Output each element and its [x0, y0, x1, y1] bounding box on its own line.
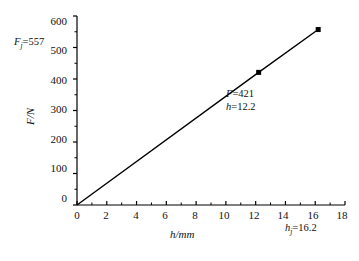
fj-annotation: Fj=557: [14, 36, 44, 50]
y-tick-label-300: 300: [33, 103, 67, 115]
x-tick-label-8: 8: [183, 209, 207, 221]
chart-figure: 0 100 200 300 400 500 600 0 2 4 6 8 10 1…: [0, 0, 359, 261]
point-height-value: =12.2: [231, 101, 255, 112]
data-series-line: [77, 30, 318, 205]
x-tick-label-18: 18: [330, 209, 354, 221]
y-axis-title: F/N: [24, 108, 36, 125]
y-tick-label-100: 100: [33, 162, 67, 174]
hj-value: =16.2: [292, 222, 316, 233]
x-tick-label-12: 12: [242, 209, 266, 221]
y-tick-label-600: 600: [33, 15, 67, 27]
x-tick-label-4: 4: [124, 209, 148, 221]
point-force-value: =421: [232, 88, 254, 99]
hj-annotation: hj=16.2: [285, 222, 317, 236]
x-tick-label-0: 0: [65, 209, 89, 221]
x-tick-label-6: 6: [153, 209, 177, 221]
point-height-annotation: h=12.2: [226, 101, 256, 112]
x-tick-label-10: 10: [212, 209, 236, 221]
fj-value: =557: [23, 36, 45, 47]
y-tick-label-0: 0: [33, 192, 67, 204]
y-tick-label-400: 400: [33, 74, 67, 86]
point-force-annotation: F=421: [226, 88, 254, 99]
data-point-marker: [316, 27, 321, 32]
x-axis-title: h/mm: [170, 228, 194, 240]
data-point-marker: [256, 70, 261, 75]
x-tick-label-16: 16: [301, 209, 325, 221]
x-tick-label-2: 2: [94, 209, 118, 221]
x-tick-label-14: 14: [271, 209, 295, 221]
y-tick-label-200: 200: [33, 133, 67, 145]
